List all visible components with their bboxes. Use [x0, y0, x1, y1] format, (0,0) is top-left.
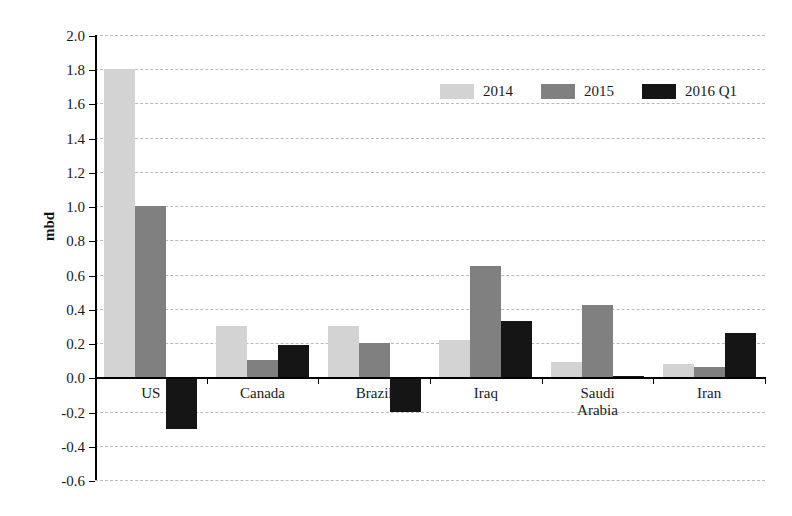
x-axis-label: Iraq: [430, 385, 542, 402]
bar: [582, 305, 613, 377]
bar: [551, 362, 582, 377]
y-tick-mark: [89, 481, 95, 482]
y-tick-label: 0.0: [66, 370, 85, 387]
legend-label: 2014: [483, 83, 513, 100]
bar: [328, 326, 359, 377]
y-tick-label: -0.2: [61, 404, 85, 421]
gridline: 1.4: [95, 138, 765, 139]
y-tick-label: 1.0: [66, 199, 85, 216]
x-axis-label: Iran: [653, 385, 765, 402]
legend-swatch: [541, 84, 575, 99]
y-tick-label: 0.8: [66, 233, 85, 250]
y-axis-title: mbd: [41, 192, 58, 262]
gridline: 0.6: [95, 275, 765, 276]
gridline: 0.8: [95, 240, 765, 241]
bar: [439, 340, 470, 378]
y-axis-line: [95, 35, 97, 480]
x-axis-label: Saudi Arabia: [542, 385, 654, 419]
gridline: -0.4: [95, 446, 765, 447]
y-tick-label: 0.2: [66, 336, 85, 353]
gridline: -0.6: [95, 480, 765, 481]
x-axis-label: Brazil: [318, 385, 430, 402]
bar: [501, 321, 532, 377]
bar: [725, 333, 756, 378]
x-tick-mark: [430, 377, 431, 384]
bar-chart: mbd 2.01.81.61.41.21.00.80.60.40.20.0-0.…: [0, 0, 792, 516]
bar: [135, 206, 166, 377]
legend-item: 2016 Q1: [642, 83, 737, 100]
y-tick-label: -0.4: [61, 438, 85, 455]
x-tick-mark: [765, 377, 766, 384]
gridline: 0.4: [95, 309, 765, 310]
bar: [470, 266, 501, 377]
gridline: 1.2: [95, 172, 765, 173]
legend-swatch: [440, 84, 474, 99]
y-tick-label: 2.0: [66, 28, 85, 45]
legend-label: 2016 Q1: [685, 83, 737, 100]
bar: [359, 343, 390, 377]
legend-item: 2015: [541, 83, 614, 100]
y-tick-label: 0.6: [66, 267, 85, 284]
bar: [663, 364, 694, 378]
bar: [278, 345, 309, 378]
bar: [104, 69, 135, 377]
x-tick-mark: [207, 377, 208, 384]
x-axis-label: Canada: [207, 385, 319, 402]
plot-area: 2.01.81.61.41.21.00.80.60.40.20.0-0.2-0.…: [95, 35, 765, 480]
legend-swatch: [642, 84, 676, 99]
gridline: 2.0: [95, 35, 765, 36]
y-tick-label: 1.8: [66, 62, 85, 79]
y-tick-label: 1.6: [66, 96, 85, 113]
bar: [694, 367, 725, 377]
legend-item: 2014: [440, 83, 513, 100]
legend: 201420152016 Q1: [440, 82, 737, 100]
y-tick-label: -0.6: [61, 473, 85, 490]
bar: [216, 326, 247, 377]
x-tick-mark: [653, 377, 654, 384]
x-axis-label: US: [95, 385, 207, 402]
gridline: 1.6: [95, 103, 765, 104]
gridline: 1.8: [95, 69, 765, 70]
x-tick-mark: [542, 377, 543, 384]
gridline: 1.0: [95, 206, 765, 207]
y-tick-label: 1.2: [66, 164, 85, 181]
bar: [247, 360, 278, 377]
legend-label: 2015: [584, 83, 614, 100]
x-tick-mark: [318, 377, 319, 384]
gridline: 0.2: [95, 343, 765, 344]
y-tick-label: 1.4: [66, 130, 85, 147]
y-tick-label: 0.4: [66, 301, 85, 318]
